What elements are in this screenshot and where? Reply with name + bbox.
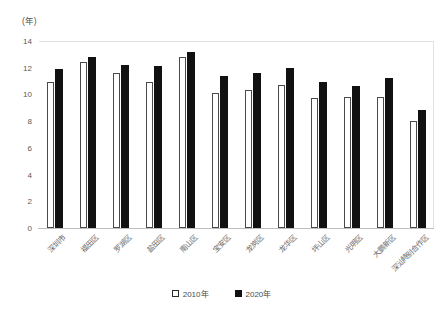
x-axis-label-光明区: 光明区 <box>341 232 363 254</box>
bar-group <box>302 41 335 228</box>
bar-group <box>38 41 71 228</box>
bar-宝安区-2020年 <box>220 76 228 228</box>
legend-swatch-icon <box>235 290 242 297</box>
bar-大鹏新区-2010年 <box>377 97 385 228</box>
bar-group <box>335 41 368 228</box>
y-axis-unit-label: (年) <box>22 14 37 26</box>
bar-福田区-2010年 <box>80 62 88 228</box>
bar-深汕特别合作区-2010年 <box>410 121 418 228</box>
x-axis-label-龙华区: 龙华区 <box>275 232 297 254</box>
legend-label: 2020年 <box>246 288 272 299</box>
y-axis-tick-14: 14 <box>2 37 32 46</box>
bar-福田区-2020年 <box>88 57 96 228</box>
legend-swatch-icon <box>172 290 179 297</box>
bar-宝安区-2010年 <box>212 93 220 228</box>
y-axis-tick-0: 0 <box>2 224 32 233</box>
bar-group <box>236 41 269 228</box>
bar-南山区-2020年 <box>187 52 195 228</box>
bar-光明区-2020年 <box>352 86 360 228</box>
bar-罗湖区-2020年 <box>121 65 129 228</box>
bar-盐田区-2020年 <box>154 66 162 228</box>
y-axis-tick-8: 8 <box>2 117 32 126</box>
bar-光明区-2010年 <box>344 97 352 228</box>
bar-大鹏新区-2020年 <box>385 78 393 228</box>
bar-龙岗区-2010年 <box>245 90 253 228</box>
x-axis-label-盐田区: 盐田区 <box>143 232 165 254</box>
bar-深圳市-2010年 <box>47 82 55 228</box>
y-axis-tick-4: 4 <box>2 170 32 179</box>
bar-龙华区-2010年 <box>278 85 286 228</box>
bar-罗湖区-2010年 <box>113 73 121 228</box>
bar-盐田区-2010年 <box>146 82 154 228</box>
bar-龙华区-2020年 <box>286 68 294 228</box>
bar-龙岗区-2020年 <box>253 73 261 228</box>
bars-layer <box>38 41 434 228</box>
bar-group <box>170 41 203 228</box>
legend-item-2010年[interactable]: 2010年 <box>172 288 209 299</box>
bar-坪山区-2020年 <box>319 82 327 228</box>
y-axis-tick-2: 2 <box>2 197 32 206</box>
x-axis-label-南山区: 南山区 <box>176 232 198 254</box>
y-axis-tick-12: 12 <box>2 63 32 72</box>
bar-group <box>71 41 104 228</box>
y-axis-tick-10: 10 <box>2 90 32 99</box>
bar-深圳市-2020年 <box>55 69 63 228</box>
x-axis-label-深圳市: 深圳市 <box>44 232 66 254</box>
chart-legend: 2010年2020年 <box>0 288 443 299</box>
bar-group <box>401 41 434 228</box>
x-axis-label-罗湖区: 罗湖区 <box>110 232 132 254</box>
bar-深汕特别合作区-2020年 <box>418 110 426 228</box>
bar-group <box>203 41 236 228</box>
legend-label: 2010年 <box>183 288 209 299</box>
bar-南山区-2010年 <box>179 57 187 228</box>
x-axis-label-大鹏新区: 大鹏新区 <box>369 232 396 259</box>
bar-chart: (年) 02468101214 深圳市福田区罗湖区盐田区南山区宝安区龙岗区龙华区… <box>0 0 443 310</box>
x-axis-tick-labels: 深圳市福田区罗湖区盐田区南山区宝安区龙岗区龙华区坪山区光明区大鹏新区深汕特别合作… <box>38 229 434 287</box>
bar-group <box>137 41 170 228</box>
bar-group <box>104 41 137 228</box>
x-axis-label-坪山区: 坪山区 <box>308 232 330 254</box>
legend-item-2020年[interactable]: 2020年 <box>235 288 272 299</box>
y-axis-tick-6: 6 <box>2 143 32 152</box>
bar-坪山区-2010年 <box>311 98 319 228</box>
x-axis-label-龙岗区: 龙岗区 <box>242 232 264 254</box>
x-axis-label-福田区: 福田区 <box>77 232 99 254</box>
x-axis-label-宝安区: 宝安区 <box>209 232 231 254</box>
bar-group <box>368 41 401 228</box>
bar-group <box>269 41 302 228</box>
